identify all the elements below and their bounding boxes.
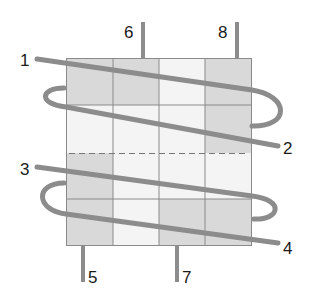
label-8: 8 <box>218 23 227 42</box>
label-2: 2 <box>283 139 292 158</box>
label-3: 3 <box>20 160 29 179</box>
threading-diagram: 1 2 3 4 5 6 7 8 <box>0 0 324 302</box>
label-1: 1 <box>20 51 29 70</box>
label-5: 5 <box>88 268 97 287</box>
cell-shaded <box>205 58 252 105</box>
label-4: 4 <box>283 239 292 258</box>
cell-shaded <box>66 199 113 246</box>
label-7: 7 <box>182 268 191 287</box>
cell-shaded <box>113 58 159 105</box>
cell-shaded <box>205 105 252 153</box>
cell-shaded <box>159 199 205 246</box>
label-6: 6 <box>124 23 133 42</box>
